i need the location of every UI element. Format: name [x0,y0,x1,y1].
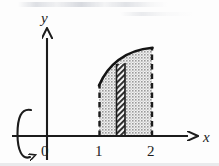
tick-label-1: 1 [95,143,103,159]
x-axis-label: x [202,129,210,145]
representative-strip [117,63,126,136]
math-figure-shell-method: y x 0 1 2 [0,0,219,166]
tick-label-2: 2 [147,143,155,159]
figure-canvas: y x 0 1 2 [0,0,219,166]
tick-label-0: 0 [41,143,49,159]
y-axis-label: y [39,10,48,26]
rotation-about-y-axis-symbol [18,110,32,158]
